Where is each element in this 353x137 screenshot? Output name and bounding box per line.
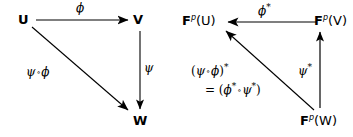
composite-line-1: (ψ∘ϕ)* <box>191 61 261 80</box>
node-fp-v: Fp(V) <box>314 14 347 27</box>
close-paren: ) <box>256 83 261 97</box>
node-v: V <box>133 13 143 26</box>
fp-v-base: F <box>314 13 323 28</box>
phi-star-symbol: ϕ <box>258 4 266 18</box>
fp-u-base: F <box>182 13 191 28</box>
node-w: W <box>133 114 147 127</box>
fp-v-argument: (V) <box>328 13 347 28</box>
phi-symbol: ϕ <box>224 83 232 97</box>
fp-w-base: F <box>300 113 309 128</box>
psi-symbol: ψ <box>26 65 35 79</box>
node-fp-u: Fp(U) <box>182 14 216 27</box>
node-fp-w: Fp(W) <box>300 114 337 127</box>
node-u: U <box>18 13 29 26</box>
arrow-label-phi-star: ϕ* <box>258 2 271 19</box>
composite-pullback-label: (ψ∘ϕ)* = (ϕ*∘ψ*) <box>191 61 261 100</box>
psi-star-symbol: ψ <box>298 64 307 78</box>
figure-canvas: U V W ϕ ψ ψ∘ϕ Fp(U) Fp(V) Fp(W) ϕ* ψ* (ψ… <box>0 0 353 137</box>
psi-symbol: ψ <box>242 83 251 97</box>
star-icon: * <box>224 62 229 72</box>
arrow-label-psi: ψ <box>144 62 153 76</box>
composite-line-2: = (ϕ*∘ψ*) <box>191 80 261 99</box>
equals-open-paren: = ( <box>205 83 224 97</box>
star-icon: * <box>307 62 312 72</box>
fp-w-argument: (W) <box>314 113 337 128</box>
psi-symbol: ψ <box>196 64 205 78</box>
arrow-label-psi-star: ψ* <box>298 62 312 79</box>
phi-symbol: ϕ <box>211 64 219 78</box>
arrow-label-psi-circ-phi: ψ∘ϕ <box>26 66 50 80</box>
fp-u-argument: (U) <box>196 13 216 28</box>
star-icon: * <box>266 2 271 12</box>
phi-symbol: ϕ <box>41 65 49 79</box>
arrow-label-phi: ϕ <box>76 2 84 16</box>
